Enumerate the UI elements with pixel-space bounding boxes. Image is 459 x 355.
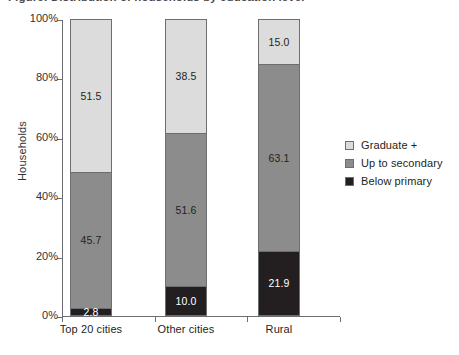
chart-legend: Graduate +Up to secondaryBelow primary <box>345 136 457 190</box>
legend-label: Graduate + <box>361 139 417 151</box>
stacked-bar-chart: Figure: Distribution of households by ed… <box>0 0 459 355</box>
bar-segment-value: 21.9 <box>269 278 290 289</box>
legend-swatch-icon <box>345 159 354 168</box>
x-category-label: Top 20 cities <box>46 323 136 335</box>
bar-segment[interactable]: 51.6 <box>165 133 207 286</box>
legend-swatch-icon <box>345 141 354 150</box>
bar-segment-value: 2.8 <box>84 307 99 318</box>
legend-item[interactable]: Up to secondary <box>345 154 457 172</box>
bar-segment[interactable]: 38.5 <box>165 19 207 133</box>
bar-segment[interactable]: 51.5 <box>70 19 112 172</box>
legend-item[interactable]: Graduate + <box>345 136 457 154</box>
bar-segment-value: 45.7 <box>81 235 102 246</box>
x-category-label: Other cities <box>141 323 231 335</box>
legend-swatch-icon <box>345 177 354 186</box>
y-tick-label: 20% <box>12 250 58 262</box>
bar-segment[interactable]: 10.0 <box>165 286 207 316</box>
x-axis-tick <box>247 317 248 322</box>
bar-segment[interactable]: 45.7 <box>70 172 112 308</box>
plot-area: 100%80%60%40%20%0% 51.545.72.838.551.610… <box>62 20 340 317</box>
bar-segment-value: 51.6 <box>176 205 197 216</box>
y-tick-label: 0% <box>12 309 58 321</box>
x-axis-line <box>62 316 340 317</box>
legend-label: Below primary <box>361 175 432 187</box>
chart-title-cropped: Figure: Distribution of households by ed… <box>0 0 459 7</box>
bar-segment-value: 10.0 <box>176 296 197 307</box>
bar-other-cities[interactable]: 38.551.610.0 <box>165 19 207 316</box>
bar-segment[interactable]: 15.0 <box>258 19 300 64</box>
bar-segment[interactable]: 21.9 <box>258 251 300 316</box>
x-axis-tick <box>155 317 156 322</box>
y-tick-label: 60% <box>12 131 58 143</box>
bar-top-20-cities[interactable]: 51.545.72.8 <box>70 19 112 316</box>
y-tick-label: 40% <box>12 190 58 202</box>
y-tick-label: 100% <box>12 12 58 24</box>
bar-segment-value: 15.0 <box>269 37 290 48</box>
bar-rural[interactable]: 15.063.121.9 <box>258 19 300 316</box>
x-axis-tick <box>340 317 341 322</box>
bar-segment-value: 51.5 <box>81 91 102 102</box>
legend-label: Up to secondary <box>361 157 443 169</box>
y-axis-line <box>62 20 63 318</box>
legend-item[interactable]: Below primary <box>345 172 457 190</box>
y-tick-label: 80% <box>12 71 58 83</box>
y-axis-title: Households <box>16 103 28 199</box>
x-axis-tick <box>62 317 63 322</box>
bar-segment-value: 38.5 <box>176 71 197 82</box>
bar-segment[interactable]: 2.8 <box>70 308 112 316</box>
chart-title: Figure: Distribution of households by ed… <box>8 0 305 3</box>
x-category-label: Rural <box>234 323 324 335</box>
bar-segment-value: 63.1 <box>269 153 290 164</box>
bar-segment[interactable]: 63.1 <box>258 64 300 251</box>
